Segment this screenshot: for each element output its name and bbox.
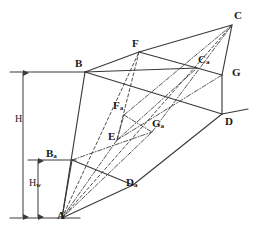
vertex-label-F: F [132,38,139,49]
vertex-label-Da-text: D [126,176,134,188]
vertex-label-A: A [57,210,65,221]
vertex-label-F-text: F [132,37,139,49]
vertex-label-G: G [232,67,241,78]
vertex-label-Da: Da [126,177,137,189]
edge-A-Da [62,185,133,218]
vertex-label-E: E [108,131,115,142]
dimension-label-H-text: H [15,113,22,124]
guide-right-D [222,109,248,114]
vertex-label-D: D [225,116,233,127]
vertex-label-C-text: C [234,9,242,21]
vertex-label-Fa-subscript: a [120,104,124,112]
vertex-label-Da-subscript: a [134,181,138,189]
vertex-label-Ca-text: C [198,53,206,65]
edge-F-C [139,25,232,52]
dimension-group [23,73,38,217]
vertex-label-Ga: Ga [152,118,164,130]
vertex-label-D-text: D [225,115,233,127]
figure-canvas [0,0,256,230]
vertex-label-Fa-text: F [113,99,120,111]
vertex-label-A-text: A [57,209,65,221]
guide-line-group [10,72,248,218]
edge-Da-D [133,114,222,185]
edge-A-E [62,140,117,218]
vertex-label-B: B [75,58,82,69]
vertex-label-Ca: Ca [198,54,209,66]
geometry-figure: ABCDEFGBaCaDaFaGa HHw [0,0,256,230]
edge-F-Ca [139,52,197,68]
vertex-label-Fa: Fa [113,100,123,112]
vertex-label-C: C [234,10,242,21]
vertex-label-Ga-subscript: a [161,122,165,130]
vertex-label-E-text: E [108,130,115,142]
vertex-label-Ba: Ba [46,148,57,160]
edge-Ca-G [197,68,222,75]
dimension-label-Hw: Hw [29,178,41,189]
dimension-label-Hw-subscript: w [36,181,41,188]
vertex-label-Ga-text: G [152,117,161,129]
vertex-label-B-text: B [75,57,82,69]
edge-A-Ga [62,132,152,218]
vertex-label-Ba-subscript: a [53,152,57,160]
dimension-label-H: H [15,114,22,124]
vertex-label-G-text: G [232,66,241,78]
vertex-label-Ca-subscript: a [206,58,210,66]
